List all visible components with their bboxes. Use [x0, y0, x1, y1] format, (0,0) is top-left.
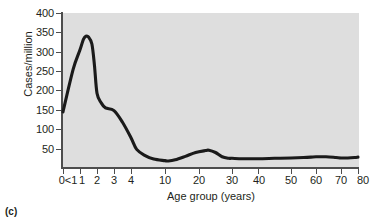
- panel-caption: (c): [5, 206, 17, 217]
- series-line-cases-per-million: [63, 36, 358, 161]
- figure-panel-c: 400 350 300 250 200 150 100 50 0<1 1 2 3…: [0, 0, 376, 223]
- data-curve-layer: [0, 0, 376, 223]
